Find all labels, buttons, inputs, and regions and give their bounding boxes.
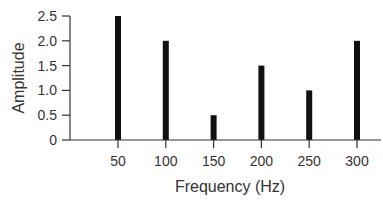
y-tick-label: 0.5 (38, 107, 58, 123)
x-tick-label: 300 (345, 153, 369, 169)
x-axis-title: Frequency (Hz) (175, 178, 285, 195)
bar-150hz (211, 115, 217, 140)
amplitude-spectrum-chart: 00.51.01.52.02.5 50100150200250300 Frequ… (0, 0, 383, 206)
y-tick-label: 1.0 (38, 82, 58, 98)
y-tick-label: 2.5 (38, 8, 58, 24)
bar-300hz (354, 41, 360, 140)
y-tick-label: 0 (49, 132, 57, 148)
bar-200hz (258, 66, 264, 140)
x-tick-label: 250 (298, 153, 322, 169)
bars (115, 16, 360, 140)
bar-50hz (115, 16, 121, 140)
y-axis-ticks: 00.51.01.52.02.5 (38, 8, 70, 148)
bar-100hz (163, 41, 169, 140)
y-tick-label: 1.5 (38, 58, 58, 74)
x-tick-label: 200 (250, 153, 274, 169)
x-tick-label: 100 (154, 153, 178, 169)
x-tick-label: 50 (110, 153, 126, 169)
bar-250hz (306, 90, 312, 140)
x-axis-ticks: 50100150200250300 (110, 140, 369, 169)
y-tick-label: 2.0 (38, 33, 58, 49)
y-axis-title: Amplitude (10, 42, 27, 113)
x-tick-label: 150 (202, 153, 226, 169)
